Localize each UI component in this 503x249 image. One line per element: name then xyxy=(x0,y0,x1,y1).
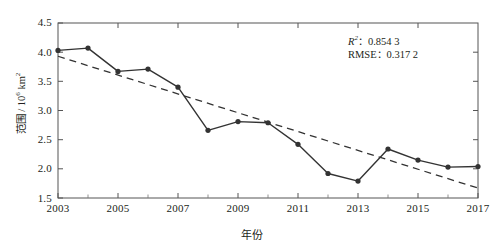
data-point xyxy=(85,45,90,50)
annotation-r-separator: ： xyxy=(358,36,368,47)
data-point xyxy=(145,66,150,71)
data-point xyxy=(325,171,330,176)
annotation-rmse: RMSE：0.317 2 xyxy=(348,48,418,62)
x-tick-label-2007: 2007 xyxy=(158,203,198,214)
annotation-r-value: 0.854 3 xyxy=(368,36,400,47)
data-point xyxy=(355,178,360,183)
data-line xyxy=(58,48,478,181)
statistics-annotation: R2：0.854 3 RMSE：0.317 2 xyxy=(348,32,418,62)
y-tick-label-3.0: 3.0 xyxy=(24,105,52,116)
annotation-rmse-label: RMSE xyxy=(348,49,377,60)
x-tick-label-2009: 2009 xyxy=(218,203,258,214)
data-point xyxy=(385,146,390,151)
data-point xyxy=(295,142,300,147)
y-axis-label-exponent-2: 2 xyxy=(14,73,22,77)
data-point xyxy=(415,157,420,162)
y-axis-label-exponent-6: 6 xyxy=(14,92,22,96)
y-axis-label-text: 范围 / 10 xyxy=(16,96,27,135)
data-point xyxy=(235,119,240,124)
x-tick-label-2015: 2015 xyxy=(398,203,438,214)
x-tick-label-2003: 2003 xyxy=(38,203,78,214)
x-tick-label-2013: 2013 xyxy=(338,203,378,214)
data-point xyxy=(115,69,120,74)
data-point xyxy=(205,128,210,133)
data-point xyxy=(265,120,270,125)
chart-figure: 4.5 4.0 3.5 3.0 2.5 2.0 1.5 2003 2005 20… xyxy=(0,0,503,249)
x-tick-label-2005: 2005 xyxy=(98,203,138,214)
y-axis-label-unit: km xyxy=(16,76,27,92)
data-point xyxy=(175,85,180,90)
y-tick-label-4.5: 4.5 xyxy=(24,17,52,28)
y-tick-label-2.0: 2.0 xyxy=(24,163,52,174)
y-tick-label-4.0: 4.0 xyxy=(24,47,52,58)
annotation-rmse-separator: ： xyxy=(377,49,387,60)
y-tick-label-2.5: 2.5 xyxy=(24,134,52,145)
x-axis-label: 年份 xyxy=(0,226,503,242)
x-axis-minor-ticks xyxy=(88,195,448,199)
x-tick-label-2017: 2017 xyxy=(458,203,498,214)
data-markers xyxy=(55,45,480,183)
data-point xyxy=(475,164,480,169)
annotation-r-squared: R2：0.854 3 xyxy=(348,32,418,48)
data-point xyxy=(445,164,450,169)
x-tick-label-2011: 2011 xyxy=(278,203,318,214)
data-point xyxy=(55,48,60,53)
y-tick-label-3.5: 3.5 xyxy=(24,76,52,87)
y-axis-label: 范围 / 106 km2 xyxy=(13,44,28,164)
annotation-rmse-value: 0.317 2 xyxy=(387,49,419,60)
